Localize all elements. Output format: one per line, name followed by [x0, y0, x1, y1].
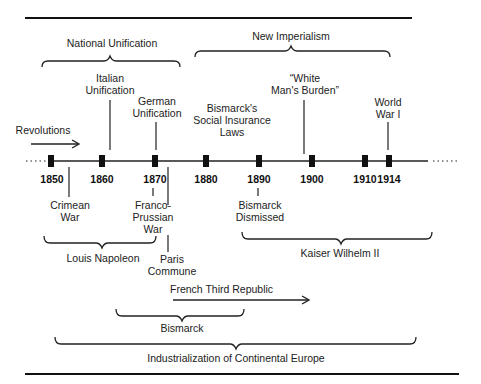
- franco-prussian-line3: War: [130, 223, 176, 235]
- kaiser-wilhelm-ii-brace: [242, 232, 432, 244]
- kaiser-wilhelm-ii-label: Kaiser Wilhelm II: [290, 247, 390, 259]
- revolutions-label: Revolutions: [8, 124, 78, 136]
- bismarck-dismissed-line1: Bismarck: [230, 199, 290, 211]
- industrialization-brace: [55, 337, 416, 349]
- white-mans-burden-line1: “White: [270, 72, 340, 84]
- year-1880: 1880: [190, 173, 222, 185]
- french-third-republic-label: French Third Republic: [170, 283, 290, 295]
- world-war-i-label: World War I: [368, 96, 408, 120]
- louis-napoleon-brace: [44, 236, 156, 248]
- world-war-i-line2: War I: [368, 108, 408, 120]
- revolutions-arrow: [31, 140, 79, 148]
- national-unification-label: National Unification: [60, 37, 164, 49]
- franco-prussian-line2: Prussian: [130, 211, 176, 223]
- italian-unification-line1: Italian: [80, 72, 140, 84]
- year-1900: 1900: [296, 173, 328, 185]
- french-third-republic-arrow: [173, 296, 309, 304]
- national-unification-brace: [42, 56, 180, 67]
- crimean-war-line1: Crimean: [42, 199, 98, 211]
- louis-napoleon-label: Louis Napoleon: [58, 252, 148, 264]
- franco-prussian-line1: Franco-: [130, 199, 176, 211]
- crimean-war-line2: War: [42, 211, 98, 223]
- german-unification-label: German Unification: [127, 95, 187, 119]
- italian-unification-label: Italian Unification: [80, 72, 140, 96]
- year-1870: 1870: [139, 173, 171, 185]
- social-insurance-label: Bismarck's Social Insurance Laws: [190, 102, 274, 138]
- bismarck-label: Bismarck: [150, 322, 214, 334]
- white-mans-burden-label: “White Man's Burden”: [270, 72, 340, 96]
- year-1914: 1914: [373, 173, 405, 185]
- german-unification-line2: Unification: [127, 107, 187, 119]
- social-insurance-line2: Social Insurance: [190, 114, 274, 126]
- white-mans-burden-line2: Man's Burden”: [270, 84, 340, 96]
- year-1860: 1860: [86, 173, 118, 185]
- paris-commune-line2: Commune: [146, 265, 198, 277]
- paris-commune-label: Paris Commune: [146, 253, 198, 277]
- world-war-i-line1: World: [368, 96, 408, 108]
- franco-prussian-war-label: Franco- Prussian War: [130, 199, 176, 235]
- industrialization-label: Industrialization of Continental Europe: [130, 352, 342, 364]
- new-imperialism-label: New Imperialism: [244, 30, 338, 42]
- paris-commune-line1: Paris: [146, 253, 198, 265]
- timeline-graphic: [0, 0, 481, 384]
- crimean-war-label: Crimean War: [42, 199, 98, 223]
- bismarck-dismissed-label: Bismarck Dismissed: [230, 199, 290, 223]
- social-insurance-line3: Laws: [190, 126, 274, 138]
- year-1890: 1890: [243, 173, 275, 185]
- bismarck-brace: [116, 309, 244, 321]
- year-1850: 1850: [36, 173, 68, 185]
- new-imperialism-brace: [195, 46, 390, 57]
- bismarck-dismissed-line2: Dismissed: [230, 211, 290, 223]
- german-unification-line1: German: [127, 95, 187, 107]
- social-insurance-line1: Bismarck's: [190, 102, 274, 114]
